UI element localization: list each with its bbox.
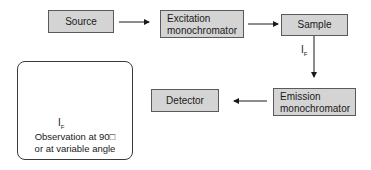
inset-label-subscript: F [61, 124, 65, 130]
node-detector-label: Detector [166, 95, 204, 107]
node-sample: Sample [281, 14, 348, 36]
node-excitation-label-2: monochromator [167, 25, 243, 37]
node-source: Source [48, 10, 114, 33]
node-excitation-label-1: Excitation [167, 13, 243, 25]
node-source-label: Source [65, 16, 97, 28]
node-detector: Detector [151, 89, 219, 112]
node-excitation-monochromator: Excitation monochromator [160, 10, 244, 38]
inset-intensity-label: IF [58, 117, 64, 130]
inset-caption-line-2: or at variable angle [18, 143, 132, 155]
fluorescence-intensity-label: IF [301, 44, 307, 57]
inset-geometry-panel: IF Observation at 90□ or at variable ang… [17, 61, 133, 160]
node-sample-label: Sample [298, 19, 332, 31]
inset-caption-line-1: Observation at 90□ [18, 131, 132, 143]
node-emission-label-1: Emission [280, 91, 355, 103]
node-emission-label-2: monochromator [280, 103, 355, 115]
node-emission-monochromator: Emission monochromator [273, 88, 356, 116]
label-subscript: F [304, 51, 308, 57]
